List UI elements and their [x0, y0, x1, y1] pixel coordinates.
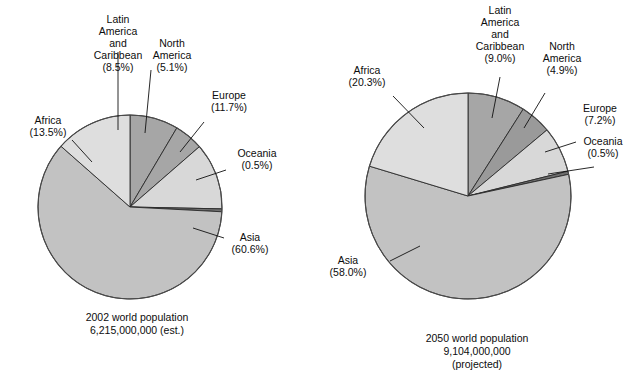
label-north-america-2050-line2: America [543, 52, 582, 64]
label-oceania-2002-name: Oceania [237, 147, 276, 159]
label-latin-america-2002-line3: and [109, 37, 127, 49]
label-asia-2002-percent: (60.6%) [232, 243, 269, 255]
label-europe-2002-percent: (11.7%) [211, 101, 247, 113]
label-latin-america-2002-line2: America [99, 25, 138, 37]
label-north-america-2002-percent: (5.1%) [157, 61, 188, 73]
caption-2050-line3: (projected) [452, 358, 502, 370]
label-oceania-2050-percent: (0.5%) [588, 147, 619, 159]
label-latin-america-2002-line4: Caribbean [94, 49, 143, 61]
label-asia-2002-name: Asia [240, 231, 261, 243]
world-population-pie-figure: Africa (13.5%) Latin America and Caribbe… [0, 0, 637, 375]
label-latin-america-2002-line1: Latin [107, 13, 130, 25]
label-africa-2002: Africa (13.5%) [30, 114, 67, 138]
label-north-america-2002-line1: North [159, 37, 185, 49]
label-north-america-2050-percent: (4.9%) [547, 64, 578, 76]
label-europe-2050-name: Europe [583, 102, 617, 114]
label-europe-2050: Europe (7.2%) [583, 102, 617, 126]
label-asia-2002: Asia (60.6%) [232, 231, 269, 255]
label-africa-2002-percent: (13.5%) [30, 126, 67, 138]
pie-chart-2050: Africa (20.3%) Latin America and Caribbe… [330, 4, 623, 370]
label-africa-2050: Africa (20.3%) [349, 64, 386, 88]
label-north-america-2002-line2: America [153, 49, 192, 61]
label-north-america-2050-line1: North [549, 40, 575, 52]
label-latin-america-2050-line1: Latin [489, 4, 512, 16]
label-oceania-2002: Oceania (0.5%) [237, 147, 276, 171]
pie-chart-2002: Africa (13.5%) Latin America and Caribbe… [30, 13, 277, 336]
caption-2050: 2050 world population 9,104,000,000 (pro… [426, 332, 529, 370]
label-europe-2002: Europe (11.7%) [211, 89, 247, 113]
label-asia-2050-percent: (58.0%) [330, 266, 367, 278]
pie-2050-slices [365, 93, 571, 299]
caption-2002-line2: 6,215,000,000 (est.) [90, 324, 184, 336]
caption-2002: 2002 world population 6,215,000,000 (est… [86, 311, 189, 336]
label-africa-2050-name: Africa [354, 64, 381, 76]
label-latin-america-2050-line4: Caribbean [476, 40, 525, 52]
label-north-america-2050: North America (4.9%) [543, 40, 582, 76]
caption-2050-line2: 9,104,000,000 [443, 345, 510, 357]
label-latin-america-2050-percent: (9.0%) [485, 52, 516, 64]
label-latin-america-2002: Latin America and Caribbean (8.5%) [94, 13, 143, 73]
pie-2002-slices [38, 115, 222, 299]
caption-2050-line1: 2050 world population [426, 332, 529, 344]
label-latin-america-2050-line3: and [491, 28, 509, 40]
label-africa-2050-percent: (20.3%) [349, 76, 386, 88]
label-oceania-2050: Oceania (0.5%) [583, 135, 622, 159]
label-africa-2002-name: Africa [35, 114, 62, 126]
label-asia-2050-name: Asia [338, 254, 359, 266]
label-asia-2050: Asia (58.0%) [330, 254, 367, 278]
label-oceania-2050-name: Oceania [583, 135, 622, 147]
label-north-america-2002: North America (5.1%) [153, 37, 192, 73]
label-europe-2050-percent: (7.2%) [585, 114, 616, 126]
caption-2002-line1: 2002 world population [86, 311, 189, 323]
label-latin-america-2002-percent: (8.5%) [103, 61, 134, 73]
label-oceania-2002-percent: (0.5%) [242, 159, 273, 171]
label-latin-america-2050: Latin America and Caribbean (9.0%) [476, 4, 525, 64]
pie-charts-canvas: Africa (13.5%) Latin America and Caribbe… [0, 0, 637, 375]
label-europe-2002-name: Europe [212, 89, 246, 101]
label-latin-america-2050-line2: America [481, 16, 520, 28]
